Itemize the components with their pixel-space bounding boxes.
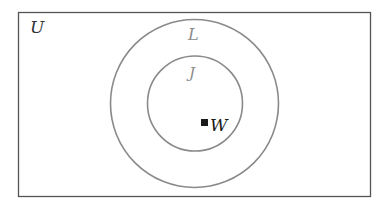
venn-diagram: U L J W (0, 0, 390, 205)
element-w-marker (201, 119, 208, 126)
element-w-label: W (210, 115, 229, 135)
universe-label: U (30, 17, 45, 37)
set-l-label: L (187, 25, 199, 44)
